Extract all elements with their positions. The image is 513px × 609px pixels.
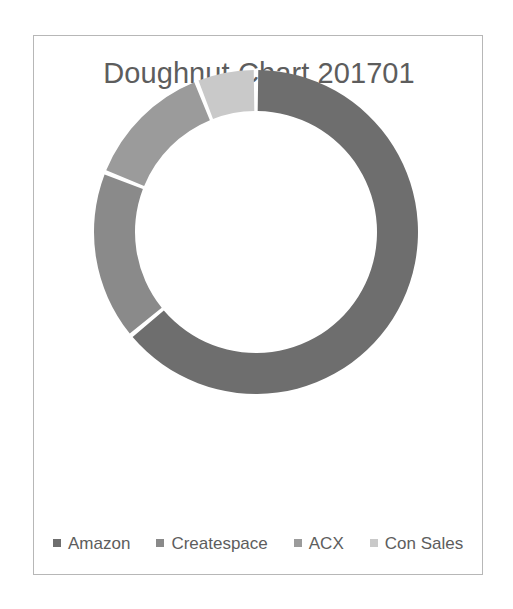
legend-label: Con Sales xyxy=(385,535,463,552)
legend-item-con-sales[interactable]: Con Sales xyxy=(370,535,463,552)
legend-swatch-icon xyxy=(294,539,302,547)
doughnut-chart-graphic[interactable] xyxy=(34,36,483,516)
legend-label: Amazon xyxy=(68,535,130,552)
legend-label: ACX xyxy=(309,535,344,552)
legend-item-acx[interactable]: ACX xyxy=(294,535,344,552)
doughnut-slice[interactable] xyxy=(106,82,210,186)
chart-frame[interactable]: Doughnut Chart 201701 Amazon Createspace… xyxy=(33,35,483,575)
legend-item-createspace[interactable]: Createspace xyxy=(156,535,267,552)
doughnut-slice-group xyxy=(94,70,418,394)
legend-item-amazon[interactable]: Amazon xyxy=(53,535,130,552)
chart-legend[interactable]: Amazon Createspace ACX Con Sales xyxy=(34,528,483,558)
legend-swatch-icon xyxy=(53,539,61,547)
doughnut-slice[interactable] xyxy=(198,70,254,119)
legend-swatch-icon xyxy=(156,539,164,547)
legend-label: Createspace xyxy=(171,535,267,552)
legend-swatch-icon xyxy=(370,539,378,547)
doughnut-slice[interactable] xyxy=(94,174,162,333)
plot-area[interactable]: Amazon Createspace ACX Con Sales xyxy=(34,36,483,575)
